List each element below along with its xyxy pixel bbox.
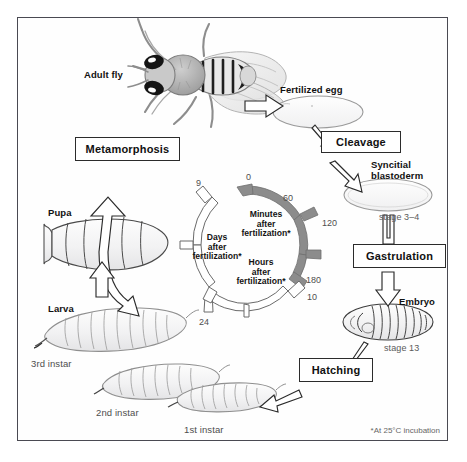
label-blastoderm-stage: stage 3–4 — [379, 212, 419, 222]
hours-arc-title-line3: fertilization* — [236, 276, 285, 286]
transition-metamorphosis[interactable]: Metamorphosis — [75, 137, 180, 161]
days-arc-title-line2: after — [208, 242, 227, 252]
hours-tick-10: 10 — [307, 292, 317, 302]
label-fertilized-egg: Fertilized egg — [280, 84, 343, 95]
label-adult-fly: Adult fly — [84, 69, 123, 80]
days-tick-9: 9 — [196, 178, 201, 188]
hours-arc-title-line2: after — [252, 267, 271, 277]
figure-canvas: Adult fly Fertilized egg Syncitial blast… — [0, 0, 467, 462]
minutes-tick-0: 0 — [246, 172, 251, 182]
label-larva-1st-instar: 1st instar — [184, 424, 224, 435]
minutes-tick-60: 60 — [283, 193, 293, 203]
label-larva-3rd-instar: 3rd instar — [31, 358, 72, 369]
label-syncytial-blastoderm-line1: Syncitial — [371, 159, 411, 170]
days-arc-title-line3: fertilization* — [192, 251, 241, 261]
days-arc-title-line1: Days — [207, 232, 228, 242]
minutes-arc-title-line2: after — [257, 219, 276, 229]
hours-arc-title: Hours after fertilization* — [218, 258, 304, 287]
minutes-tick-120: 120 — [322, 218, 337, 228]
label-embryo: Embryo — [399, 296, 435, 307]
label-larva-2nd-instar: 2nd instar — [96, 407, 139, 418]
label-larva: Larva — [48, 303, 74, 314]
transition-cleavage[interactable]: Cleavage — [321, 131, 401, 153]
footnote: *At 25°C incubation — [371, 426, 440, 435]
minutes-arc-title-line1: Minutes — [250, 209, 282, 219]
label-pupa: Pupa — [48, 207, 72, 218]
days-arc-title: Days after fertilization* — [176, 233, 258, 262]
label-syncytial-blastoderm-line2: blastoderm — [371, 170, 423, 181]
transition-hatching[interactable]: Hatching — [299, 358, 373, 382]
label-embryo-stage: stage 13 — [384, 343, 419, 353]
hours-tick-24: 24 — [199, 317, 209, 327]
transition-gastrulation[interactable]: Gastrulation — [353, 244, 446, 268]
minutes-tick-180: 180 — [306, 275, 321, 285]
